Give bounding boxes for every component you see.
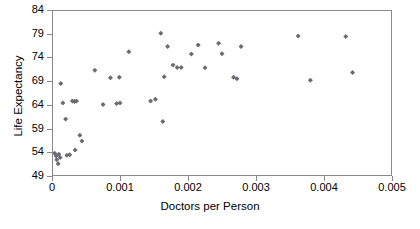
x-axis-tick-mark — [256, 176, 257, 181]
y-axis-tick-mark — [47, 105, 52, 106]
y-axis-tick-mark — [47, 81, 52, 82]
y-axis-title: Life Expectancy — [12, 31, 24, 161]
y-axis-tick-mark — [47, 57, 52, 58]
y-axis-tick-label: 49 — [0, 170, 44, 181]
x-axis-title: Doctors per Person — [0, 200, 420, 212]
x-axis-tick-mark — [392, 176, 393, 181]
x-axis-tick-mark — [324, 176, 325, 181]
scatter-chart: 4954596469747984 00.0010.0020.0030.0040.… — [0, 0, 420, 229]
y-axis-tick-label: 84 — [0, 4, 44, 15]
y-axis-tick-mark — [47, 129, 52, 130]
x-axis-tick-mark — [188, 176, 189, 181]
y-axis-tick-mark — [47, 10, 52, 11]
x-axis-tick-label: 0.004 — [294, 182, 354, 193]
x-axis-tick-label: 0.002 — [158, 182, 218, 193]
x-axis-tick-mark — [120, 176, 121, 181]
x-axis-tick-label: 0.005 — [362, 182, 420, 193]
plot-area — [52, 10, 392, 176]
x-axis-tick-label: 0 — [22, 182, 82, 193]
y-axis-tick-mark — [47, 34, 52, 35]
y-axis-tick-mark — [47, 152, 52, 153]
x-axis-tick-label: 0.003 — [226, 182, 286, 193]
x-axis-tick-mark — [52, 176, 53, 181]
x-axis-tick-label: 0.001 — [90, 182, 150, 193]
